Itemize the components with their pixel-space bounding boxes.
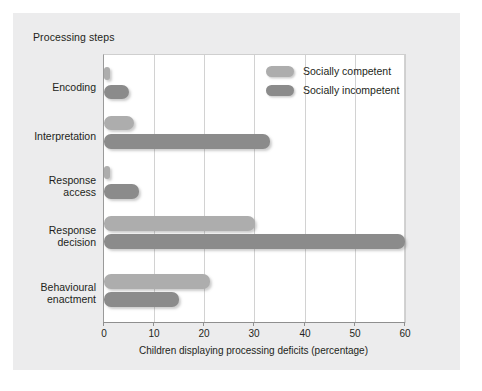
xtick-mark-30 [253,322,254,326]
bar-response-decision-incompetent [104,234,405,249]
xtick-label-60: 60 [399,328,410,339]
xtick-mark-20 [203,322,204,326]
ytick-label-behavioural-enactment-line1: Behavioural [41,282,96,294]
xtick-label-40: 40 [299,328,310,339]
chart-title: Processing steps [33,31,115,43]
bar-behavioural-enactment-incompetent [104,292,179,307]
bar-response-access-competent [104,166,110,179]
ytick-label-response-access-line1: Response [49,175,96,187]
x-axis-title: Children displaying processing deficits … [103,345,404,356]
xtick-label-10: 10 [148,328,159,339]
xtick-label-30: 30 [248,328,259,339]
xtick-label-20: 20 [198,328,209,339]
bar-interpretation-incompetent [104,134,270,149]
xtick-mark-50 [354,322,355,326]
x-axis-line [103,322,405,323]
legend-item-socially-competent: Socially competent [266,63,399,79]
xtick-mark-10 [153,322,154,326]
legend-item-socially-incompetent: Socially incompetent [266,82,399,98]
ytick-label-response-access-line2: access [49,187,96,199]
ytick-label-interpretation: Interpretation [34,131,96,143]
bar-encoding-incompetent [104,85,129,99]
bar-response-access-incompetent [104,184,139,199]
chart-legend: Socially competent Socially incompetent [266,63,399,101]
ytick-label-response-decision-line2: decision [49,237,96,249]
ytick-label-response-decision-line1: Response [49,225,96,237]
ytick-label-response-access: Response access [49,175,96,198]
xtick-mark-40 [304,322,305,326]
ytick-label-behavioural-enactment-line2: enactment [41,294,96,306]
gridline-30 [254,55,255,323]
legend-swatch-icon-incompetent [266,85,294,96]
legend-label-competent: Socially competent [303,65,391,77]
legend-label-incompetent: Socially incompetent [303,84,399,96]
xtick-label-0: 0 [101,328,107,339]
chart-figure: Processing steps Socially competent [0,0,482,391]
ytick-label-encoding-line1: Encoding [52,82,96,94]
bar-behavioural-enactment-competent [104,274,210,289]
bar-encoding-competent [104,67,110,80]
bar-interpretation-competent [104,116,134,130]
ytick-label-behavioural-enactment: Behavioural enactment [41,282,96,305]
ytick-label-interpretation-line1: Interpretation [34,131,96,143]
bar-response-decision-competent [104,216,255,231]
xtick-label-50: 50 [349,328,360,339]
plot-area: Socially competent Socially incompetent [103,54,406,323]
ytick-label-encoding: Encoding [52,82,96,94]
xtick-mark-0 [103,322,104,326]
ytick-label-response-decision: Response decision [49,225,96,248]
legend-swatch-icon-competent [266,66,294,77]
gridline-60 [404,55,405,323]
xtick-mark-60 [404,322,405,326]
